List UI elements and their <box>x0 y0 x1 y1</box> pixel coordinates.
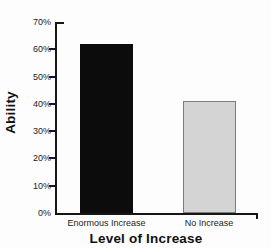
bar-1 <box>183 101 236 213</box>
y-tick-label: 40% <box>16 99 51 109</box>
x-category-label: Enormous Increase <box>52 218 162 229</box>
y-axis-top-tick <box>56 22 64 24</box>
x-axis-line <box>55 213 258 215</box>
y-tick-label: 50% <box>16 72 51 82</box>
y-tick-label: 20% <box>16 153 51 163</box>
y-tick-label: 30% <box>16 126 51 136</box>
y-tick-label: 60% <box>16 44 51 54</box>
y-tick-label: 10% <box>16 181 51 191</box>
y-tick-label: 0% <box>16 208 51 218</box>
y-tick-label: 70% <box>16 17 51 27</box>
bar-0 <box>80 44 133 213</box>
bar-chart: Ability 0%10%20%30%40%50%60%70% Enormous… <box>0 0 271 249</box>
x-category-label: No Increase <box>154 218 264 229</box>
x-axis-title: Level of Increase <box>61 231 231 246</box>
